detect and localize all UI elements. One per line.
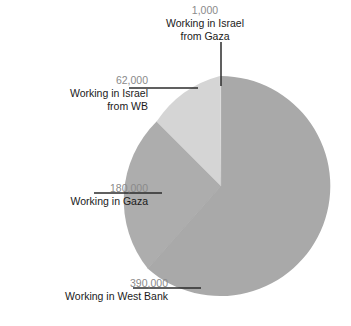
callout-israel-from-wb: 62,000 Working in Israel from WB xyxy=(18,74,148,113)
callout-west-bank: 390,000 Working in West Bank xyxy=(20,277,168,303)
callout-value-israel-from-gaza: 1,000 xyxy=(150,4,260,17)
callout-value-west-bank: 390,000 xyxy=(20,277,168,290)
callout-label-west-bank: Working in West Bank xyxy=(20,290,168,303)
callout-value-israel-from-wb: 62,000 xyxy=(18,74,148,87)
callout-israel-from-gaza: 1,000 Working in Israel from Gaza xyxy=(150,4,260,43)
callout-value-gaza: 180,000 xyxy=(0,182,148,195)
pie-slices xyxy=(124,76,331,296)
callout-label-israel-from-wb-line2: from WB xyxy=(18,100,148,113)
callout-label-israel-from-gaza-line1: Working in Israel xyxy=(150,17,260,30)
callout-label-israel-from-wb-line1: Working in Israel xyxy=(18,87,148,100)
callout-label-gaza: Working in Gaza xyxy=(0,195,148,208)
callout-gaza: 180,000 Working in Gaza xyxy=(0,182,148,208)
callout-label-israel-from-gaza-line2: from Gaza xyxy=(150,30,260,43)
pie-chart-figure: 1,000 Working in Israel from Gaza 62,000… xyxy=(0,0,351,326)
